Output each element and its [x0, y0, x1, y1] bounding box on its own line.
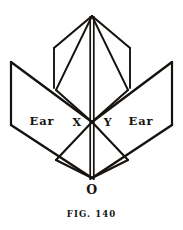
lower-fold-group [56, 122, 128, 178]
lower-fold-right-to-origin-line [92, 160, 128, 178]
label-origin-o: O [86, 184, 97, 197]
label-right-ear: Ear [129, 116, 154, 128]
label-point-y: Y [104, 117, 112, 128]
figure-container: Ear Ear X Y O FIG. 140 [0, 0, 183, 230]
apex-to-inner-left-top-line [54, 16, 92, 48]
wing-left-bottom-edge-line [11, 125, 92, 178]
label-point-x: X [73, 117, 82, 128]
wing-right-bottom-edge-line [92, 125, 172, 178]
figure-caption: FIG. 140 [0, 210, 183, 219]
central-spine-group [90, 16, 94, 180]
apex-to-inner-right-top-line [92, 16, 130, 48]
upper-panel-group [54, 16, 130, 122]
wing-left-top-edge-line [11, 62, 92, 122]
lower-fold-left-to-origin-line [56, 160, 92, 178]
wing-right-top-edge-line [92, 62, 172, 122]
apex-to-inner-left-bottom-line [56, 16, 92, 90]
label-left-ear: Ear [30, 116, 55, 128]
apex-to-inner-right-bottom-line [92, 16, 128, 90]
